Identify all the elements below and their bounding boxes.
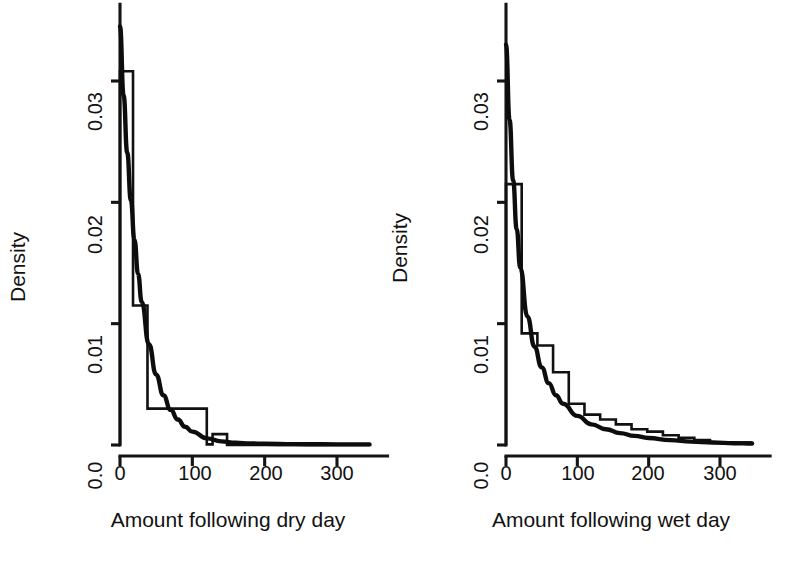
y-tick-label-0.01: 0.01 [84, 325, 107, 385]
panel-wet-day: 0 100 200 300 0.0 0.01 0.02 0.03 Density… [385, 0, 785, 576]
x-tick-label-100: 100 [561, 462, 594, 485]
plot-area-wet-day [385, 0, 785, 576]
x-tick-label-200: 200 [631, 462, 664, 485]
y-axis-title-wet: Density [388, 193, 412, 303]
y-tick-label-0.01: 0.01 [470, 325, 493, 385]
figure-container: 0 100 200 300 0.0 0.01 0.02 0.03 Density… [0, 0, 785, 576]
x-tick-label-300: 300 [703, 462, 736, 485]
y-tick-label-0.03: 0.03 [470, 82, 493, 142]
y-tick-label-0: 0.0 [470, 446, 493, 506]
y-tick-label-0.02: 0.02 [84, 205, 107, 265]
x-tick-label-100: 100 [178, 462, 211, 485]
histogram-step-outline [120, 71, 370, 445]
y-tick-label-0.02: 0.02 [470, 205, 493, 265]
y-tick-label-0: 0.0 [84, 446, 107, 506]
fitted-exponential-density [120, 26, 370, 444]
x-tick-label-0: 0 [500, 462, 511, 485]
panel-dry-day: 0 100 200 300 0.0 0.01 0.02 0.03 Density… [0, 0, 400, 576]
y-tick-label-0.03: 0.03 [84, 82, 107, 142]
x-tick-label-200: 200 [249, 462, 282, 485]
histogram-step-outline [506, 184, 752, 445]
x-axis-title-dry: Amount following dry day [111, 508, 346, 532]
x-tick-label-300: 300 [320, 462, 353, 485]
fitted-exponential-density [506, 45, 752, 444]
y-axis-title-dry: Density [6, 212, 30, 322]
plot-area-dry-day [0, 0, 400, 576]
x-axis-title-wet: Amount following wet day [492, 508, 730, 532]
x-tick-label-0: 0 [114, 462, 125, 485]
